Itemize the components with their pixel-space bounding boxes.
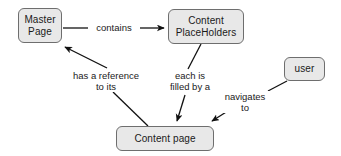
node-content-placeholders[interactable]: Content PlaceHolders <box>168 9 244 44</box>
edge-label-has-reference: has a reference to its <box>61 70 151 92</box>
edge-label-contains: contains <box>88 22 140 33</box>
edge-label-each-filled: each is filled by a <box>158 70 222 92</box>
node-user-label: user <box>295 63 315 75</box>
node-master-page-label: Master Page <box>24 14 55 38</box>
node-master-page[interactable]: Master Page <box>18 8 62 43</box>
node-user[interactable]: user <box>284 57 325 81</box>
node-content-page[interactable]: Content page <box>116 126 214 151</box>
edge-label-navigates: navigates to <box>215 91 275 113</box>
node-content-page-label: Content page <box>134 133 195 145</box>
concept-diagram: Master Page Content PlaceHolders user Co… <box>0 0 341 156</box>
node-content-placeholders-label: Content PlaceHolders <box>176 15 237 39</box>
